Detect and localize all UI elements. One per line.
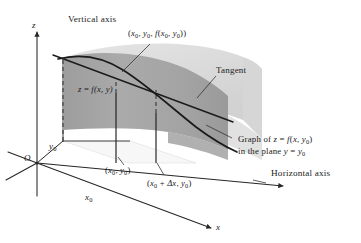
z-axis-variable-label: z <box>32 20 36 30</box>
tangent-label: Tangent <box>216 65 246 75</box>
horizontal-axis-label: Horizontal axis <box>271 168 330 178</box>
graph-of-curve-note: Graph of z = f(x, y0) in the plane y = y… <box>238 134 312 157</box>
x-axis-back-segment <box>8 152 37 163</box>
horizontal-axis-back-segment <box>6 163 37 180</box>
leader-horizontal-axis <box>253 180 266 183</box>
y0-tick-label: y0 <box>49 141 57 152</box>
origin-label: O <box>24 153 31 163</box>
graph-note-line-2: in the plane y = y0 <box>238 146 312 158</box>
graph-note-line-1: Graph of z = f(x, y0) <box>238 134 312 146</box>
origin-dot <box>36 162 39 165</box>
x-axis-variable-label: x <box>216 222 220 232</box>
axis-ticks <box>36 162 39 165</box>
partial-derivative-diagram: Vertical axis z (x0, y0, f(x0, y0)) Tang… <box>0 0 361 243</box>
base-point-x0-plus-delta-x-label: (x0 + Δx, y0) <box>147 179 191 190</box>
surface-equation-label: z = f(x, y) <box>78 85 113 95</box>
x0-tick-label: x0 <box>85 192 93 203</box>
base-point-x0-y0-label: (x0, y0) <box>105 166 130 177</box>
vertical-axis-label: Vertical axis <box>68 14 116 24</box>
tangency-point-label: (x0, y0, f(x0, y0)) <box>128 29 186 40</box>
leader-base-x0dx <box>157 163 164 175</box>
